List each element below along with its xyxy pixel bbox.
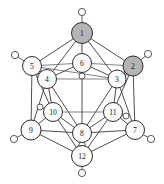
terminal-h-9 (10, 135, 17, 142)
vertex-6: 6 (73, 54, 92, 73)
terminal-h-2 (144, 50, 151, 57)
vertex-12-circle (72, 146, 93, 167)
cage-edge-v5-v9 (31, 75, 32, 121)
cage-edge-v3-v11 (114, 87, 116, 103)
terminal-bond-v5 (18, 57, 24, 61)
molecular-structure-figure: 123456789101112 (0, 0, 164, 184)
cage-edge-v9-v12 (39, 134, 73, 151)
vertex-3: 3 (108, 70, 126, 88)
vertex-4-circle (38, 70, 57, 89)
terminal-h-10 (37, 104, 43, 110)
vertex-1-circle (72, 23, 93, 44)
vertex-11: 11 (104, 103, 123, 122)
cage-edge-v8-v9 (40, 131, 73, 133)
terminal-h-5 (11, 51, 18, 58)
vertex-3-circle (108, 70, 126, 88)
terminal-h-11 (123, 113, 129, 119)
cage-edge-v7-v8 (91, 131, 126, 133)
vertex-7-circle (126, 121, 145, 140)
vertex-6-circle (73, 54, 92, 73)
vertex-9-circle (21, 120, 41, 140)
cage-edge-v1-v2 (90, 38, 125, 60)
terminal-h-7 (147, 135, 154, 142)
vertex-8-circle (73, 124, 92, 143)
cage-edge-v2-v7 (133, 76, 134, 122)
vertex-5: 5 (23, 57, 42, 76)
vertex-12: 12 (72, 146, 93, 167)
terminal-h-1 (78, 8, 85, 15)
vertex-10-circle (44, 103, 63, 122)
cage-edge-v9-v10 (38, 118, 46, 124)
vertex-5-circle (23, 57, 42, 76)
cage-edge-v7-v12 (91, 134, 127, 152)
terminal-h-12 (78, 169, 85, 176)
vertex-8: 8 (73, 124, 92, 143)
cage-edge-v4-v10 (49, 88, 52, 103)
vertex-1: 1 (72, 23, 93, 44)
cage-edge-v3-v6 (90, 67, 109, 76)
vertex-2: 2 (123, 56, 143, 76)
vertex-11-circle (104, 103, 123, 122)
vertex-10: 10 (44, 103, 63, 122)
terminal-h-6 (79, 73, 85, 79)
cage-edge-v2-v6 (91, 64, 124, 66)
vertex-2-circle (123, 56, 143, 76)
vertex-7: 7 (126, 121, 145, 140)
cage-edge-v1-v5 (40, 39, 74, 62)
cluster-diagram-svg: 123456789101112 (0, 0, 164, 184)
vertex-9: 9 (21, 120, 41, 140)
vertex-4: 4 (38, 70, 57, 89)
